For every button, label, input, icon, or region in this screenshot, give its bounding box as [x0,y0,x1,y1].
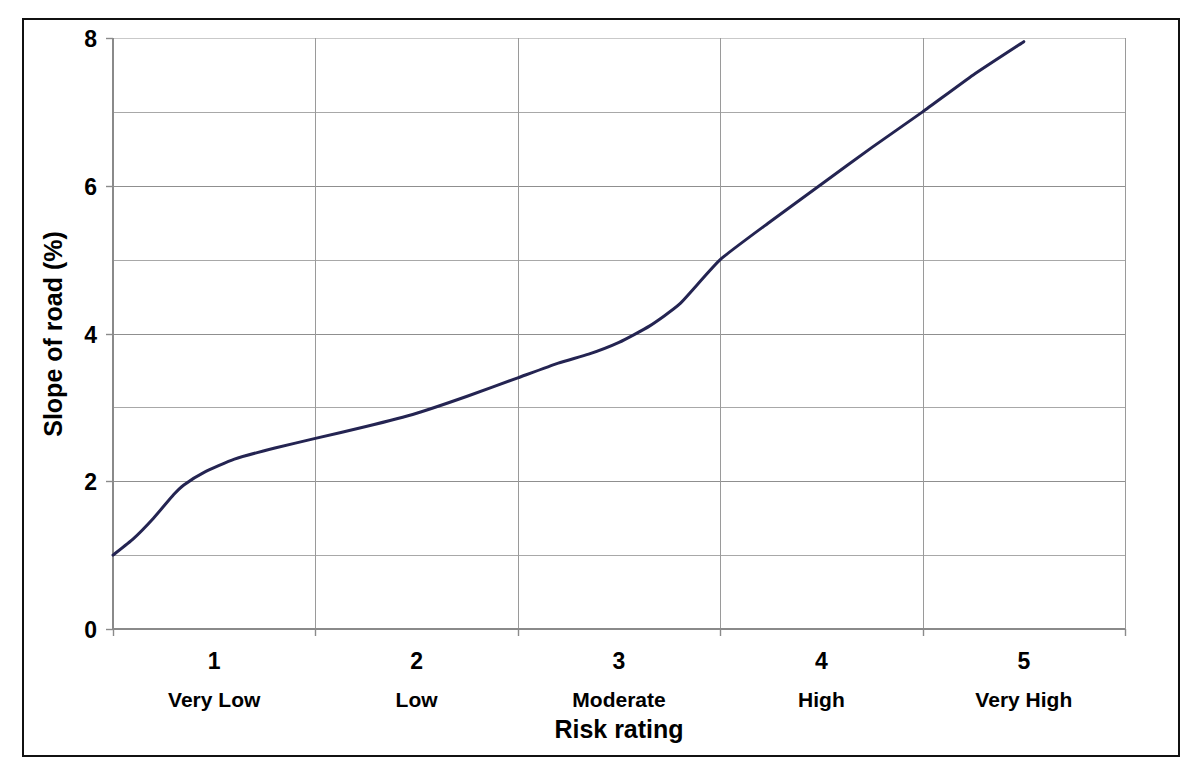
y-axis-title: Slope of road (%) [39,231,67,437]
x-tick-label-2: 2 [410,648,423,674]
y-tick-label-2: 2 [84,469,97,495]
x-category-label-low: Low [396,688,439,711]
x-axis-category-labels: Very LowLowModerateHighVery High [168,688,1072,711]
y-tick-label-0: 0 [84,617,97,643]
x-axis-tick-marks [114,629,1126,636]
x-category-label-very-low: Very Low [168,688,261,711]
plot-background [113,38,1125,629]
line-chart: 02468 12345 Very LowLowModerateHighVery … [0,0,1198,778]
x-tick-label-4: 4 [815,648,828,674]
x-axis-tick-labels: 12345 [208,648,1031,674]
x-tick-label-1: 1 [208,648,221,674]
y-axis-tick-marks [106,39,113,630]
y-axis-tick-labels: 02468 [84,26,97,643]
x-axis-title: Risk rating [554,715,683,743]
y-tick-label-6: 6 [84,174,97,200]
x-category-label-moderate: Moderate [572,688,665,711]
plot-wrapper: 02468 12345 Very LowLowModerateHighVery … [0,0,1198,778]
figure-root: 02468 12345 Very LowLowModerateHighVery … [0,0,1198,778]
x-tick-label-5: 5 [1017,648,1030,674]
x-tick-label-3: 3 [613,648,626,674]
x-category-label-very-high: Very High [975,688,1072,711]
y-tick-label-4: 4 [84,322,97,348]
x-category-label-high: High [798,688,845,711]
y-tick-label-8: 8 [84,26,97,52]
